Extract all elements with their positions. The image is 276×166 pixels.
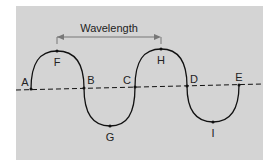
point-label-b: B — [87, 74, 94, 86]
point-label-g: G — [106, 131, 115, 143]
diagram-panel — [16, 6, 263, 160]
point-marker — [134, 86, 137, 89]
point-marker — [212, 121, 215, 124]
wavelength-label: Wavelength — [80, 22, 138, 34]
point-marker — [160, 48, 163, 51]
point-marker — [238, 84, 241, 87]
point-label-i: I — [211, 127, 214, 139]
point-label-d: D — [190, 73, 198, 85]
point-marker — [30, 88, 33, 91]
point-label-e: E — [235, 71, 242, 83]
point-marker — [186, 85, 189, 88]
point-marker — [109, 125, 112, 128]
wave-diagram: Wavelength A F B G C H D I E — [0, 0, 276, 166]
point-marker — [83, 87, 86, 90]
point-marker — [56, 50, 59, 53]
point-label-c: C — [123, 74, 131, 86]
point-label-a: A — [21, 76, 29, 88]
point-label-h: H — [157, 54, 165, 66]
point-label-f: F — [54, 56, 61, 68]
